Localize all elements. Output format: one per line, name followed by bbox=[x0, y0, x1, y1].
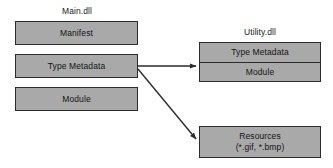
box-resources-label-line2: (*.gif, *.bmp) bbox=[236, 142, 285, 153]
group-label-utility-dll: Utility.dll bbox=[205, 27, 315, 37]
box-manifest-label: Manifest bbox=[60, 28, 93, 38]
box-utility-type-metadata-label: Type Metadata bbox=[231, 47, 289, 57]
box-manifest: Manifest bbox=[15, 21, 138, 45]
box-utility-module-label: Module bbox=[246, 67, 274, 77]
box-resources-label-line1: Resources bbox=[239, 131, 281, 142]
box-utility-module: Module bbox=[200, 62, 320, 82]
box-main-module-label: Module bbox=[62, 94, 90, 104]
box-main-type-metadata: Type Metadata bbox=[15, 54, 138, 78]
box-utility-dll: Type Metadata Module bbox=[199, 42, 321, 82]
box-resources: Resources (*.gif, *.bmp) bbox=[199, 126, 321, 158]
arrow-type-metadata-to-resources bbox=[138, 69, 196, 139]
group-label-main-dll: Main.dll bbox=[34, 6, 120, 16]
box-main-type-metadata-label: Type Metadata bbox=[48, 61, 106, 71]
assembly-diagram: Main.dll Manifest Type Metadata Module U… bbox=[0, 0, 333, 168]
box-main-module: Module bbox=[15, 87, 138, 111]
box-utility-type-metadata: Type Metadata bbox=[200, 43, 320, 62]
box-resources-text: Resources (*.gif, *.bmp) bbox=[236, 131, 285, 153]
